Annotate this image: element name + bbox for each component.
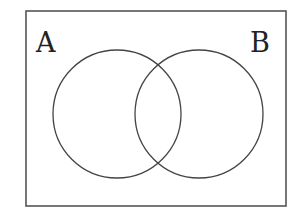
set-b-label: B (250, 27, 270, 58)
venn-diagram: A B (0, 0, 299, 210)
set-a-label: A (35, 27, 56, 58)
universal-set-rectangle (26, 11, 286, 206)
set-b-circle (135, 50, 263, 178)
set-a-circle (53, 50, 181, 178)
